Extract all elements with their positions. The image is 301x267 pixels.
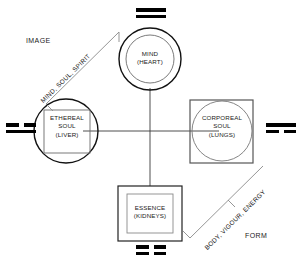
label-image: IMAGE xyxy=(26,37,51,44)
bigram-segment xyxy=(136,252,149,256)
bigram-segment xyxy=(154,245,167,249)
bigram-line-broken xyxy=(6,123,36,127)
bigram-segment xyxy=(136,8,166,12)
bigram-line-broken xyxy=(266,130,296,134)
bigram-left xyxy=(6,123,36,133)
bigram-segment xyxy=(6,123,19,127)
bigram-segment xyxy=(136,245,149,249)
bigram-segment xyxy=(284,130,297,134)
bigram-segment xyxy=(136,15,166,19)
bigram-segment xyxy=(6,130,36,134)
bigram-line-broken xyxy=(136,252,166,256)
bigram-line-solid xyxy=(136,15,166,19)
bigram-line-broken xyxy=(136,245,166,249)
bigram-right xyxy=(266,123,296,133)
bigram-segment xyxy=(266,130,279,134)
essence-inner-square xyxy=(127,194,173,233)
bigram-segment xyxy=(154,252,167,256)
bigram-segment xyxy=(266,123,296,127)
diagram-canvas: MIND (HEART) ETHEREAL SOUL (LIVER) CORPO… xyxy=(0,0,301,267)
bracket-upper-left xyxy=(46,32,119,111)
mind-inner-circle xyxy=(126,35,174,83)
bigram-line-solid xyxy=(136,8,166,12)
mind-outer-circle xyxy=(119,28,181,90)
bigram-line-solid xyxy=(266,123,296,127)
label-form: FORM xyxy=(245,232,267,239)
bigram-segment xyxy=(24,123,37,127)
bigram-line-solid xyxy=(6,130,36,134)
corporeal-soul-outer-square xyxy=(190,100,253,163)
ethereal-soul-inner-square xyxy=(44,110,90,153)
bigram-bottom xyxy=(136,245,166,255)
bigram-top xyxy=(136,8,166,18)
